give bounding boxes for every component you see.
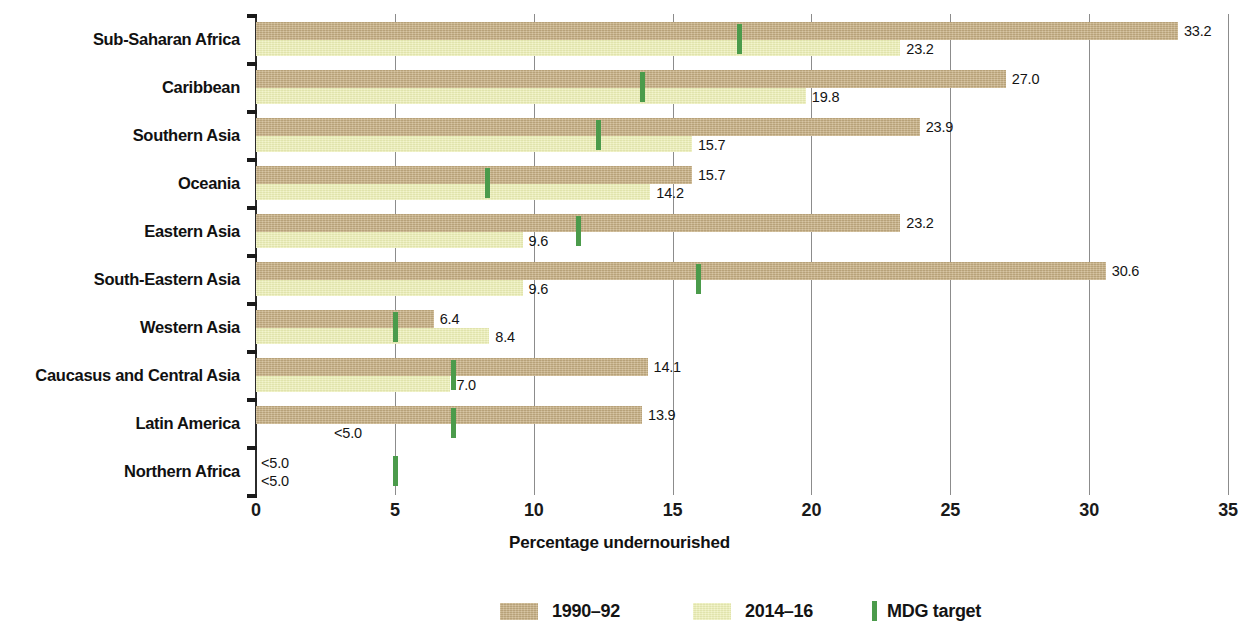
bar-1990-92	[256, 22, 1178, 40]
bar-1990-92	[256, 118, 920, 136]
category-label: Western Asia	[0, 319, 240, 336]
gridline	[1089, 14, 1090, 495]
bar-1990-92	[256, 262, 1106, 280]
bar-value-1990-92: 27.0	[1012, 71, 1039, 87]
mdg-target-marker	[640, 72, 645, 102]
undernourishment-bar-chart: Sub-Saharan AfricaCaribbeanSouthern Asia…	[0, 0, 1239, 626]
bar-1990-92	[256, 166, 692, 184]
category-label: South-Eastern Asia	[0, 271, 240, 288]
bar-2014-16	[256, 88, 806, 104]
mdg-target-marker	[696, 264, 701, 294]
category-label: Eastern Asia	[0, 223, 240, 240]
gridline	[1228, 14, 1229, 495]
legend-swatch-1990-92-icon	[500, 603, 538, 620]
bar-2014-16	[256, 184, 650, 200]
mdg-target-marker	[596, 120, 601, 150]
bar-value-2014-16: 15.7	[698, 137, 725, 153]
legend-item-mdg-target: MDG target	[872, 598, 981, 624]
category-label: Southern Asia	[0, 127, 240, 144]
x-tick-label: 35	[1218, 500, 1238, 521]
plot-area: 33.223.227.019.823.915.715.714.223.29.63…	[256, 14, 1228, 494]
bar-value-1990-92: 14.1	[654, 359, 681, 375]
legend-label-mdg-target: MDG target	[887, 601, 981, 622]
legend-swatch-2014-16-icon	[693, 603, 731, 620]
bar-value-1990-92: 15.7	[698, 167, 725, 183]
x-tick-label: 25	[940, 500, 960, 521]
x-axis-title: Percentage undernourished	[0, 533, 1239, 553]
mdg-target-marker	[576, 216, 581, 246]
bar-value-1990-92: <5.0	[261, 455, 289, 471]
bar-value-2014-16: 8.4	[495, 329, 515, 345]
bar-value-1990-92: 30.6	[1112, 263, 1139, 279]
mdg-target-marker	[451, 360, 456, 390]
bar-value-2014-16: 23.2	[906, 41, 933, 57]
bar-1990-92	[256, 70, 1006, 88]
bar-value-1990-92: 33.2	[1184, 23, 1211, 39]
bar-1990-92	[256, 310, 434, 328]
bar-value-2014-16: 14.2	[656, 185, 683, 201]
chart-legend: 1990–92 2014–16 MDG target	[0, 598, 1239, 624]
category-label: Sub-Saharan Africa	[0, 31, 240, 48]
bar-value-2014-16: 19.8	[812, 89, 839, 105]
x-tick-label: 5	[390, 500, 400, 521]
category-label: Caucasus and Central Asia	[0, 367, 240, 384]
y-axis-tick	[247, 494, 257, 498]
category-label: Northern Africa	[0, 463, 240, 480]
bar-2014-16	[256, 40, 900, 56]
legend-item-1990-92: 1990–92	[500, 598, 620, 624]
mdg-target-marker	[393, 312, 398, 342]
legend-item-2014-16: 2014–16	[693, 598, 813, 624]
bar-value-1990-92: 6.4	[440, 311, 460, 327]
bar-2014-16	[256, 376, 450, 392]
bar-2014-16	[256, 232, 523, 248]
bar-2014-16	[256, 136, 692, 152]
category-label: Latin America	[0, 415, 240, 432]
bar-value-2014-16: 9.6	[529, 233, 549, 249]
mdg-target-marker	[451, 408, 456, 438]
x-tick-label: 20	[802, 500, 822, 521]
bar-2014-16	[256, 280, 523, 296]
bar-value-2014-16: 9.6	[529, 281, 549, 297]
bar-value-2014-16: <5.0	[261, 473, 289, 489]
legend-label-2014-16: 2014–16	[745, 601, 813, 622]
bar-value-2014-16: <5.0	[334, 425, 362, 441]
bar-value-1990-92: 13.9	[648, 407, 675, 423]
category-label: Oceania	[0, 175, 240, 192]
bar-value-2014-16: 7.0	[456, 377, 476, 393]
bar-value-1990-92: 23.9	[926, 119, 953, 135]
mdg-target-marker	[393, 456, 398, 486]
category-label: Caribbean	[0, 79, 240, 96]
x-tick-label: 0	[251, 500, 261, 521]
bar-1990-92	[256, 406, 642, 424]
mdg-target-marker	[737, 24, 742, 54]
x-tick-label: 10	[524, 500, 544, 521]
bar-2014-16	[256, 328, 489, 344]
x-tick-label: 15	[663, 500, 683, 521]
legend-swatch-mdg-target-icon	[872, 601, 877, 621]
legend-label-1990-92: 1990–92	[552, 601, 620, 622]
x-tick-label: 30	[1079, 500, 1099, 521]
mdg-target-marker	[485, 168, 490, 198]
bar-value-1990-92: 23.2	[906, 215, 933, 231]
